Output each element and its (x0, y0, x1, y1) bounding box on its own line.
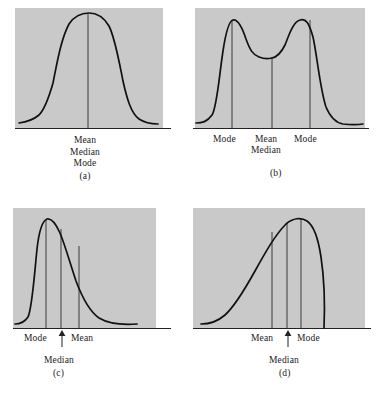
panel-d-plot (193, 205, 371, 337)
panel-b-label-median: Median (251, 145, 281, 156)
panel-d-label-mean: Mean (251, 333, 273, 344)
panel-c: Mode Mean Median (c) (13, 205, 173, 395)
panel-b: Mode Mean Mode Median (b) (193, 5, 368, 195)
panel-a-background (15, 8, 163, 128)
panel-b-plot (193, 5, 369, 137)
panel-b-label-mode-left: Mode (213, 134, 236, 145)
panel-d-tag: (d) (279, 368, 291, 379)
panel-d-background (193, 208, 365, 328)
panel-b-label-mode-right: Mode (294, 134, 317, 145)
panel-c-label-mode: Mode (24, 333, 47, 344)
panel-c-label-mean: Mean (71, 333, 93, 344)
panel-a-label-median: Median (5, 147, 165, 159)
panel-a: Mean Median Mode (a) (13, 5, 173, 195)
panel-a-labels: Mean Median Mode (a) (5, 135, 165, 182)
panel-c-label-median: Median (44, 355, 74, 366)
panel-d-median-arrow-icon (282, 330, 294, 348)
figure-distribution-shapes: Mean Median Mode (a) Mode Mean Mode Medi… (0, 0, 378, 397)
panel-b-label-mean: Mean (255, 134, 277, 145)
panel-a-label-mode: Mode (5, 158, 165, 170)
panel-a-plot (13, 5, 173, 137)
panel-b-tag: (b) (270, 168, 282, 179)
panel-a-label-mean: Mean (5, 135, 165, 147)
panel-c-tag: (c) (53, 368, 64, 379)
panel-c-median-arrow-icon (56, 330, 68, 348)
panel-d-label-median: Median (269, 355, 299, 366)
panel-a-tag: (a) (5, 170, 165, 182)
panel-d-label-mode: Mode (297, 333, 320, 344)
panel-d: Mean Mode Median (d) (193, 205, 371, 395)
panel-c-plot (13, 205, 173, 337)
